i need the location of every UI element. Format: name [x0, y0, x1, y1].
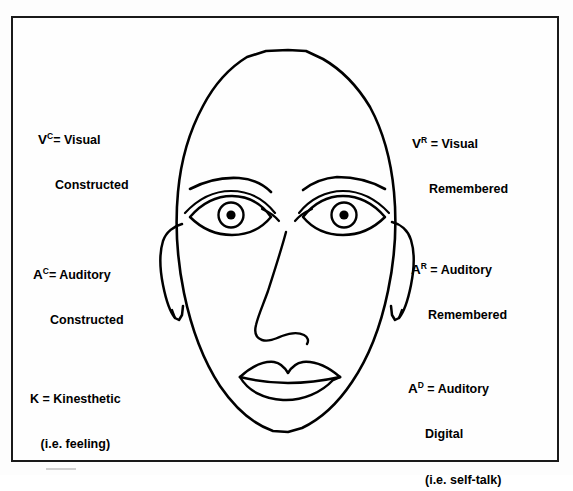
label-auditory-constructed-line1: AC= Auditory: [33, 267, 124, 283]
visual-constructed-equals: = Visual: [53, 133, 100, 147]
auditory-digital-symbol: A: [408, 381, 418, 396]
label-visual-constructed-line1: VC= Visual: [38, 132, 129, 148]
label-auditory-digital: AD = Auditory Digital (i.e. self-talk): [408, 350, 501, 491]
auditory-constructed-symbol: A: [33, 267, 43, 282]
label-auditory-digital-line2: Digital: [408, 427, 501, 442]
label-auditory-remembered-line2: Remembered: [411, 308, 507, 323]
label-auditory-constructed-line2: Constructed: [33, 313, 124, 328]
label-auditory-remembered-line1: AR = Auditory: [411, 262, 507, 278]
label-auditory-constructed: AC= Auditory Constructed: [33, 236, 124, 359]
auditory-constructed-equals: = Auditory: [49, 268, 111, 282]
label-visual-constructed-line2: Constructed: [38, 178, 129, 193]
label-kinesthetic-line1: K = Kinesthetic: [30, 392, 121, 407]
auditory-digital-equals: = Auditory: [424, 382, 489, 396]
visual-remembered-equals: = Visual: [427, 137, 478, 151]
auditory-remembered-equals: = Auditory: [427, 263, 492, 277]
label-visual-remembered: VR = Visual Remembered: [412, 105, 508, 228]
label-visual-remembered-line2: Remembered: [412, 182, 508, 197]
label-kinesthetic-line2: (i.e. feeling): [30, 437, 121, 452]
label-auditory-digital-line3: (i.e. self-talk): [408, 473, 501, 488]
label-kinesthetic: K = Kinesthetic (i.e. feeling): [30, 361, 121, 483]
label-auditory-digital-line1: AD = Auditory: [408, 381, 501, 397]
label-visual-remembered-line1: VR = Visual: [412, 136, 508, 152]
visual-constructed-symbol: V: [38, 132, 47, 147]
visual-remembered-symbol: V: [412, 136, 421, 151]
label-visual-constructed: VC= Visual Constructed: [38, 101, 129, 224]
auditory-remembered-symbol: A: [411, 262, 421, 277]
label-auditory-remembered: AR = Auditory Remembered: [411, 231, 507, 354]
